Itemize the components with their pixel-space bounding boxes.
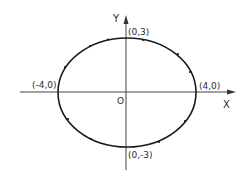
y-axis-label: Y (112, 13, 120, 24)
x-axis-arrow-icon (227, 90, 236, 95)
ellipse-diagram: Y X O (0,3) (0,-3) (-4,0) (4,0) (0, 0, 249, 176)
left-vertex-label: (-4,0) (32, 80, 57, 90)
top-vertex-label: (0,3) (128, 27, 149, 37)
x-axis-label: X (223, 99, 230, 110)
bottom-vertex-label: (0,-3) (128, 150, 153, 160)
origin-label: O (117, 96, 124, 106)
y-axis-arrow-icon (124, 15, 129, 24)
curve-tick-marks (64, 38, 191, 143)
right-vertex-label: (4,0) (199, 81, 220, 91)
diagram-svg: Y X O (0,3) (0,-3) (-4,0) (4,0) (0, 0, 249, 176)
